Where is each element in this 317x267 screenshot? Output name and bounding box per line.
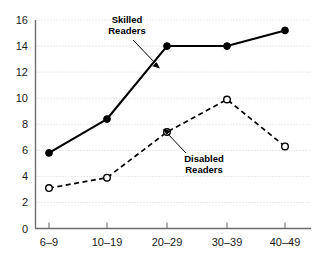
data-point-marker <box>104 174 111 181</box>
y-tick-label: 16 <box>16 14 28 26</box>
y-tick-label: 12 <box>16 66 28 78</box>
y-tick-label: 8 <box>22 118 28 130</box>
y-tick-label: 14 <box>16 40 28 52</box>
line-chart: 0246810121416 6–910–1920–2930–3940–49 Sk… <box>0 0 317 267</box>
x-tick-label: 40–49 <box>270 236 301 248</box>
data-point-marker <box>224 43 231 50</box>
annotation-disabled-line1: Disabled <box>184 153 224 164</box>
x-tick-label: 10–19 <box>92 236 123 248</box>
data-point-marker <box>46 150 53 157</box>
data-point-marker <box>224 96 231 103</box>
y-tick-label: 6 <box>22 144 28 156</box>
data-point-marker <box>282 27 289 34</box>
y-tick-label: 2 <box>22 196 28 208</box>
data-point-marker <box>104 116 111 123</box>
x-tick-label: 6–9 <box>40 236 58 248</box>
y-tick-label: 4 <box>22 170 28 182</box>
chart-container: 0246810121416 6–910–1920–2930–3940–49 Sk… <box>0 0 317 267</box>
data-point-marker <box>46 185 53 192</box>
x-tick-label: 30–39 <box>212 236 243 248</box>
annotation-disabled-line2: Readers <box>185 164 223 175</box>
data-point-marker <box>282 143 289 150</box>
y-tick-label: 10 <box>16 92 28 104</box>
annotation-skilled-line2: Readers <box>108 25 146 36</box>
y-tick-label: 0 <box>22 223 28 235</box>
annotation-skilled-line1: Skilled <box>112 14 143 25</box>
data-point-marker <box>164 43 171 50</box>
x-tick-label: 20–29 <box>152 236 183 248</box>
